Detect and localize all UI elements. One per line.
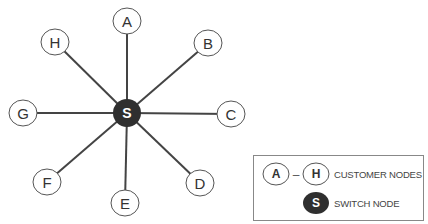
- svg-text:G: G: [17, 105, 29, 122]
- svg-text:A: A: [272, 167, 281, 181]
- customer-node-g: G: [9, 100, 37, 126]
- svg-text:B: B: [203, 35, 213, 52]
- legend-node-h: H: [303, 163, 329, 185]
- customer-node-f: F: [33, 169, 61, 195]
- svg-text:D: D: [195, 175, 206, 192]
- switch-node-label: S: [122, 105, 131, 121]
- legend: A – H S CUSTOMER NODES SWITCH NODE: [253, 155, 424, 221]
- legend-customer-label: CUSTOMER NODES: [334, 169, 422, 180]
- edge-s-f: [47, 113, 127, 182]
- svg-text:F: F: [42, 174, 51, 191]
- legend-switch-label: SWITCH NODE: [334, 198, 399, 209]
- svg-text:A: A: [122, 13, 132, 30]
- edge-s-d: [127, 113, 200, 183]
- customer-node-h: H: [41, 29, 69, 55]
- customer-node-c: C: [217, 101, 245, 127]
- svg-text:S: S: [312, 196, 320, 210]
- edge-s-h: [55, 42, 127, 113]
- customer-node-a: A: [113, 8, 141, 34]
- edge-s-c: [127, 113, 231, 114]
- edge-s-b: [127, 43, 208, 113]
- legend-symbols: A – H S: [254, 156, 425, 222]
- svg-text:E: E: [120, 195, 130, 212]
- customer-node-d: D: [186, 170, 214, 196]
- legend-node-a: A: [263, 163, 289, 185]
- switch-node: S: [113, 99, 141, 127]
- svg-text:H: H: [50, 34, 61, 51]
- legend-range-dash: –: [293, 168, 300, 182]
- svg-text:C: C: [226, 106, 237, 123]
- svg-text:H: H: [312, 167, 321, 181]
- customer-node-b: B: [194, 30, 222, 56]
- legend-switch-symbol: S: [303, 192, 329, 214]
- customer-node-e: E: [111, 190, 139, 216]
